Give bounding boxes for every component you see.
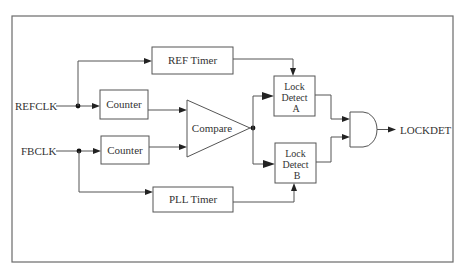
lockdet-label: LOCKDET <box>400 124 452 136</box>
fbclk-label: FBCLK <box>21 145 57 157</box>
lock-detect-a-line1: Lock <box>284 81 305 92</box>
pll-timer-label: PLL Timer <box>169 193 218 205</box>
compare-label: Compare <box>192 122 232 134</box>
lock-detect-b-line1: Lock <box>285 148 306 159</box>
ref-timer-label: REF Timer <box>168 54 218 66</box>
lock-detect-b-line3: B <box>294 170 301 181</box>
lock-detect-a-line3: A <box>292 103 300 114</box>
counter-ref-label: Counter <box>106 98 142 110</box>
lock-detect-b-line2: Detect <box>282 159 308 170</box>
refclk-label: REFCLK <box>15 100 57 112</box>
lock-detect-block-diagram: REFCLK Counter REF Timer FBCLK Counter P… <box>0 0 466 275</box>
counter-fb-label: Counter <box>107 144 143 156</box>
lock-detect-a-line2: Detect <box>281 92 307 103</box>
and-gate <box>350 112 377 147</box>
